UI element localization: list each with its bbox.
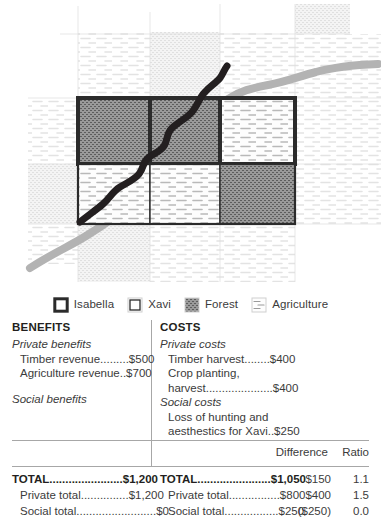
benefits-spacer [12,381,148,392]
parcel-isabella-forest-1 [78,98,150,164]
forest-swatch-icon [184,297,200,313]
benefits-entry: Timber revenue.........$500 [20,352,148,367]
legend-label-forest: Forest [205,299,238,311]
legend-item-forest[interactable]: Forest [184,297,238,313]
parcel-xavi-forest [220,164,295,224]
social-total-benefits: Social total.........................$0 [12,503,148,519]
land-use-map [0,0,381,290]
social-total-difference: ($250) [298,503,331,519]
private-total-costs: Private total................$800 [160,487,292,503]
social-benefits-label: Social benefits [12,392,148,407]
difference-ratio-header: Difference Ratio [0,444,381,464]
parcel-isabella-forest-2 [150,98,220,164]
benefits-costs-table: BENEFITS Private benefits Timber revenue… [0,320,381,520]
table-row: Private total...............$1,200 Priva… [0,487,381,503]
totals-block: TOTAL.......................$1,200 TOTAL… [0,471,381,519]
total-costs: TOTAL.......................$1,050 [160,471,292,487]
costs-heading: COSTS [160,320,290,334]
costs-entry: Loss of hunting and [168,410,290,425]
costs-entry: aesthestics for Xavi..$250 [168,424,290,439]
social-total-costs: Social total.................$250 [160,503,292,519]
costs-entry: Crop planting, [168,366,290,381]
parcel-isabella-agriculture [220,98,295,164]
table-row: Social total.........................$0 … [0,503,381,519]
private-total-difference: $400 [305,487,331,503]
benefits-heading: BENEFITS [12,320,148,334]
xavi-swatch-icon [127,297,143,313]
social-total-ratio: 0.0 [353,503,369,519]
isabella-swatch-icon [53,297,69,313]
costs-entry: harvest.....................$400 [168,381,290,396]
map-svg [0,0,381,290]
table-row: TOTAL.......................$1,200 TOTAL… [0,471,381,487]
table-rule-lower [12,466,369,467]
difference-column-header: Difference [276,444,328,460]
private-costs-label: Private costs [160,337,290,352]
private-total-ratio: 1.5 [353,487,369,503]
total-ratio: 1.1 [353,471,369,487]
costs-entry: Timber harvest........$400 [168,352,290,367]
benefits-column: BENEFITS Private benefits Timber revenue… [12,320,148,406]
legend-label-xavi: Xavi [148,299,171,311]
legend-label-isabella: Isabella [74,299,114,311]
agriculture-swatch-icon [251,297,267,313]
legend-item-isabella[interactable]: Isabella [53,297,114,313]
benefits-entry: Agriculture revenue..$700 [20,366,148,381]
table-rule-upper [12,440,369,441]
map-legend: Isabella Xavi Forest [0,291,381,319]
isabella-parcels [78,98,295,164]
private-total-benefits: Private total...............$1,200 [12,487,148,503]
private-benefits-label: Private benefits [12,337,148,352]
costs-column: COSTS Private costs Timber harvest......… [160,320,290,439]
social-costs-label: Social costs [160,395,290,410]
total-difference: $150 [305,471,331,487]
legend-item-xavi[interactable]: Xavi [127,297,171,313]
legend-label-agriculture: Agriculture [272,299,328,311]
parcel-xavi-agriculture-2 [150,164,220,224]
legend-item-agriculture[interactable]: Agriculture [251,297,328,313]
total-benefits: TOTAL.......................$1,200 [12,471,148,487]
ratio-column-header: Ratio [342,444,369,460]
